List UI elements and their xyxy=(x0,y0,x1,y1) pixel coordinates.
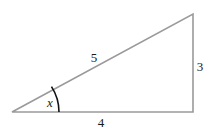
vertical-side-label: 3 xyxy=(197,59,204,74)
base-label: 4 xyxy=(98,115,105,130)
triangle-diagram: 5 3 4 x xyxy=(0,0,212,135)
angle-label: x xyxy=(46,95,53,110)
hypotenuse-label: 5 xyxy=(91,50,98,65)
triangle xyxy=(12,14,193,112)
